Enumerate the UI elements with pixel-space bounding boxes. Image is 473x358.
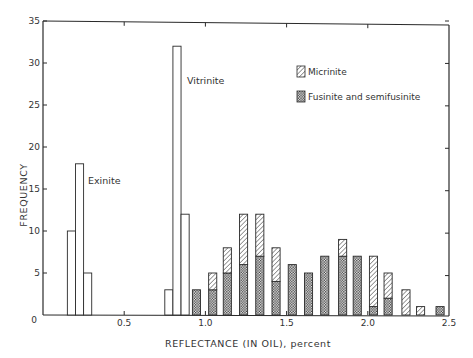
y-tick-label: 25	[29, 100, 40, 110]
bar-micrinite	[384, 273, 392, 298]
legend-micrinite-label: Micrinite	[308, 67, 347, 77]
bar-fusinite-and-semifusinite	[304, 273, 312, 315]
top-axis-line	[43, 21, 449, 25]
bar-fusinite-and-semifusinite	[339, 256, 347, 315]
micrinite-swatch	[297, 66, 305, 77]
y-tick-label: 10	[29, 226, 41, 236]
bar-micrinite	[272, 248, 280, 282]
bar-fusinite-and-semifusinite	[209, 290, 217, 315]
bar-micrinite	[417, 307, 425, 315]
bar-exinite	[75, 164, 83, 315]
bar-vitrinite	[173, 46, 181, 315]
y-tick-label: 30	[29, 58, 41, 68]
bar-fusinite-and-semifusinite	[436, 307, 444, 315]
bar-vitrinite	[165, 290, 173, 315]
bar-micrinite	[223, 248, 231, 273]
y-tick-label: 5	[34, 268, 40, 278]
x-tick-label: 1.5	[279, 318, 293, 328]
bar-micrinite	[339, 239, 347, 256]
bars	[67, 46, 444, 315]
x-tick-label: 0.5	[117, 318, 131, 328]
bar-fusinite-and-semifusinite	[321, 256, 329, 315]
x-tick-label: 1.0	[198, 318, 213, 328]
fusinite-swatch	[297, 91, 305, 102]
legend-fusinite-label: Fusinite and semifusinite	[308, 92, 421, 102]
reflectance-histogram: 05101520253035 0.51.01.52.02.5 FREQUENCY…	[0, 0, 473, 358]
bar-micrinite	[402, 290, 410, 315]
bar-fusinite-and-semifusinite	[384, 298, 392, 315]
x-tick-label: 2.0	[361, 318, 376, 328]
bar-fusinite-and-semifusinite	[272, 281, 280, 315]
bar-fusinite-and-semifusinite	[369, 307, 377, 315]
bar-fusinite-and-semifusinite	[223, 273, 231, 315]
bar-micrinite	[369, 256, 377, 306]
y-tick-label: 35	[29, 16, 40, 26]
exinite-annotation: Exinite	[88, 175, 121, 186]
bar-exinite	[67, 231, 75, 315]
bar-vitrinite	[181, 214, 189, 315]
bar-fusinite-and-semifusinite	[192, 290, 200, 315]
bar-fusinite-and-semifusinite	[256, 256, 264, 315]
vitrinite-annotation: Vitrinite	[187, 75, 225, 86]
y-axis-label: FREQUENCY	[18, 163, 29, 226]
bar-micrinite	[256, 214, 264, 256]
bar-fusinite-and-semifusinite	[353, 256, 361, 315]
bar-micrinite	[240, 214, 248, 264]
y-tick-label: 0	[31, 315, 37, 325]
x-axis-label: REFLECTANCE (IN OIL), percent	[165, 338, 331, 349]
y-tick-label: 15	[29, 184, 40, 194]
bar-micrinite	[209, 273, 217, 290]
bar-fusinite-and-semifusinite	[240, 265, 248, 315]
x-axis-ticks: 0.51.01.52.02.5	[117, 22, 456, 328]
legend: Micrinite Fusinite and semifusinite	[297, 66, 421, 102]
bar-fusinite-and-semifusinite	[288, 265, 296, 315]
y-tick-label: 20	[29, 142, 41, 152]
x-tick-label: 2.5	[442, 318, 456, 328]
bar-exinite	[84, 273, 92, 315]
